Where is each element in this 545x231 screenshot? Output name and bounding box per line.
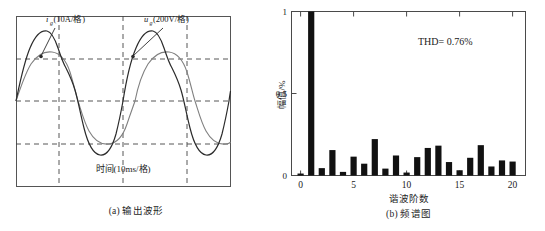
spectrum-frame: [292, 12, 526, 176]
voltage-label: u g (200V/格): [144, 14, 189, 26]
spectrum-plot: 0 0.5 1 0 5 10 15 20 THD= 0.76%: [272, 0, 545, 200]
spectrum-x-axis-title: 谐波阶数: [272, 191, 545, 205]
time-axis-label: 时间(10ms/格): [96, 163, 151, 174]
spectrum-bar: [382, 169, 388, 176]
x-tick-label-20: 20: [508, 180, 518, 190]
spectrum-bar: [308, 12, 314, 176]
y-tick-label-1: 1: [283, 7, 288, 17]
spectrum-bar: [329, 150, 335, 175]
spectrum-bar: [372, 139, 378, 175]
figure-harmonic-spectrum: 0 0.5 1 0 5 10 15 20 THD= 0.76% 谐波阶数 幅值/…: [272, 0, 545, 231]
spectrum-bar: [404, 173, 410, 176]
spectrum-bar: [319, 168, 325, 175]
x-tick-label-10: 10: [402, 180, 412, 190]
voltage-label-symbol: u: [144, 14, 148, 24]
spectrum-y-axis-title: 幅值/%: [275, 65, 288, 125]
waveform-plot: i g (10A/格) u g (200V/格) 时间(10ms/格): [0, 0, 272, 200]
spectrum-bar: [298, 174, 304, 176]
spectrum-bar: [478, 145, 484, 175]
spectrum-bar: [340, 172, 346, 176]
spectrum-bar: [488, 166, 494, 175]
spectrum-bar: [414, 157, 420, 175]
figure-output-waveform: i g (10A/格) u g (200V/格) 时间(10ms/格) (a) …: [0, 0, 272, 231]
spectrum-bar: [510, 162, 516, 176]
spectrum-bar: [425, 148, 431, 176]
current-label-unit: (10A/格): [54, 14, 86, 24]
thd-annotation: THD= 0.76%: [418, 36, 473, 47]
figure-a-caption: (a) 输出波形: [0, 203, 272, 217]
figure-b-caption: (b) 频谱图: [272, 206, 545, 220]
voltage-label-unit: (200V/格): [153, 14, 189, 24]
current-label: i g (10A/格): [46, 14, 85, 26]
x-tick-label-0: 0: [298, 180, 303, 190]
spectrum-bar: [446, 162, 452, 175]
spectrum-bar: [499, 160, 505, 175]
spectrum-bar: [457, 170, 463, 175]
spectrum-bar: [361, 164, 367, 176]
spectrum-bar: [467, 158, 473, 176]
spectrum-bar: [435, 146, 441, 176]
x-tick-label-15: 15: [455, 180, 465, 190]
x-tick-label-5: 5: [351, 180, 356, 190]
spectrum-bar: [393, 155, 399, 175]
y-tick-label-0: 0: [283, 171, 288, 181]
spectrum-bar: [351, 157, 357, 176]
